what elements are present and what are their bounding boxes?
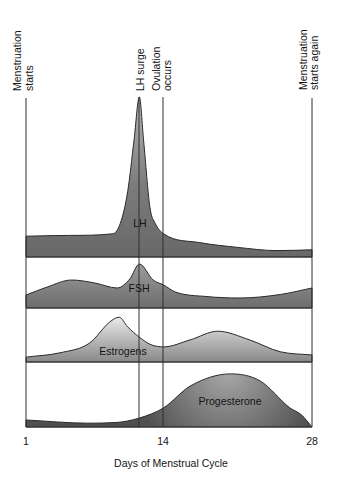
- annotation-ovulation-line2: occurs: [161, 60, 173, 91]
- lh-label: LH: [133, 217, 146, 229]
- annotation-menstruation-starts-line1: Menstruation: [11, 30, 23, 91]
- fsh-curve: [26, 264, 312, 308]
- progesterone-label: Progesterone: [198, 395, 261, 407]
- x-tick-day-28: 28: [306, 435, 318, 447]
- x-axis-title: Days of Menstrual Cycle: [114, 457, 228, 469]
- progesterone-curve: [26, 374, 312, 427]
- annotation-lh-surge: LH surge: [134, 48, 146, 91]
- lh-curve: [26, 97, 312, 257]
- estrogens-curve: [26, 317, 312, 362]
- estrogens-label: Estrogens: [99, 345, 146, 357]
- menstrual-cycle-hormone-chart: Menstruation starts LH surge Ovulation o…: [0, 0, 337, 491]
- fsh-label: FSH: [129, 282, 150, 294]
- annotation-menstruation-again-line2: starts again: [308, 36, 320, 90]
- x-tick-day-14: 14: [157, 435, 169, 447]
- annotation-menstruation-starts-line2: starts: [23, 65, 35, 91]
- x-tick-day-1: 1: [23, 435, 29, 447]
